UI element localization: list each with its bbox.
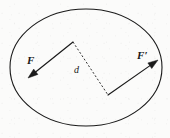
diagram-canvas [0, 0, 170, 138]
force-right-label: F′ [137, 50, 148, 61]
force-left-arrowhead-icon [28, 69, 38, 78]
force-left-vector-shaft [35, 42, 73, 73]
force-right-arrowhead-icon [148, 60, 158, 69]
body-outline-ellipse [10, 9, 162, 126]
force-couple-diagram: F F′ d [0, 0, 170, 138]
force-left-label: F [27, 55, 35, 66]
distance-label: d [74, 65, 79, 75]
force-right-vector-shaft [108, 65, 151, 95]
